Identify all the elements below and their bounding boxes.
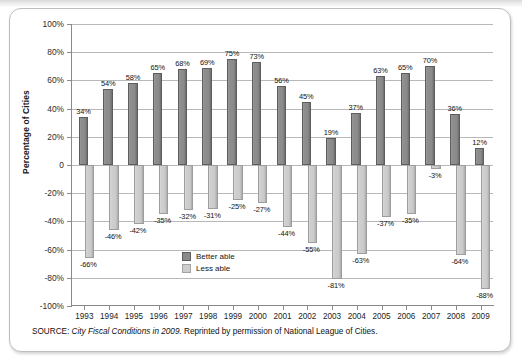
bar-value-label-better-able: 37% [349,103,364,112]
source-title: City Fiscal Conditions in 2009. [72,327,182,336]
bar-less-able [159,165,169,214]
x-axis-tick-label: 1994 [100,312,118,321]
bar-value-label-less-able: -63% [352,256,369,265]
bar-better-able [351,113,361,165]
bar-less-able [184,165,194,210]
bar-value-label-better-able: 70% [423,56,438,65]
chart-figure-frame: Percentage of Cities 100%80%60%40%20%0-2… [9,8,511,352]
bar-value-label-better-able: 56% [274,76,289,85]
bar-better-able [475,148,485,165]
y-axis-tick-label: -40% [44,216,64,226]
bar-value-label-less-able: -32% [179,212,196,221]
x-axis-tick-label: 2001 [273,312,291,321]
source-note: SOURCE: City Fiscal Conditions in 2009. … [32,327,377,336]
gridline [72,250,493,251]
gridline [72,278,493,279]
bar-better-able [376,76,386,165]
plot-area: 100%80%60%40%20%0-20%-40%-60%-80%-100% 1… [72,24,493,306]
bar-better-able [103,89,113,165]
bar-value-label-better-able: 36% [448,104,463,113]
y-axis-tick [67,24,72,25]
figure-page: Percentage of Cities 100%80%60%40%20%0-2… [0,0,522,362]
bar-value-label-better-able: 73% [249,52,264,61]
x-axis-tick-label: 2008 [447,312,465,321]
x-axis-tick [481,306,482,310]
x-axis-tick-label: 2006 [397,312,415,321]
bar-better-able [153,73,163,165]
y-axis-tick [67,306,72,307]
bar-value-label-less-able: -35% [154,216,171,225]
bar-better-able [227,59,237,165]
x-axis-tick-label: 2005 [372,312,390,321]
bar-value-label-less-able: -44% [278,229,295,238]
bar-better-able [202,68,212,165]
bar-value-label-less-able: -3% [429,171,442,180]
bar-less-able [258,165,268,203]
page-top-shadow [0,0,522,7]
bar-better-able [302,102,312,165]
bar-better-able [425,66,435,165]
bar-less-able [407,165,417,214]
x-axis-tick [382,306,383,310]
bar-value-label-less-able: -81% [328,281,345,290]
y-axis-tick-label: 40% [47,104,64,114]
y-axis-tick-label: 80% [47,47,64,57]
x-axis-tick [332,306,333,310]
legend-item-better-able: Better able [182,252,235,261]
x-axis-tick-label: 1997 [174,312,192,321]
bar-less-able [431,165,441,169]
bar-value-label-less-able: -27% [253,205,270,214]
bar-better-able [128,83,138,165]
legend-swatch-icon-less-able [182,264,191,273]
bar-value-label-less-able: -25% [229,202,246,211]
x-axis-tick-label: 1996 [150,312,168,321]
y-axis-tick-label: -100% [40,301,64,311]
bar-value-label-better-able: 54% [101,79,116,88]
bar-less-able [233,165,243,200]
bar-better-able [277,86,287,165]
bar-less-able [134,165,144,224]
bar-value-label-better-able: 68% [175,59,190,68]
x-axis-tick [307,306,308,310]
y-axis-tick [67,165,72,166]
bar-value-label-better-able: 69% [200,58,215,67]
y-axis-tick [67,80,72,81]
gridline [72,52,493,53]
x-axis-tick-label: 2009 [472,312,490,321]
x-axis-tick [134,306,135,310]
bar-better-able [401,73,411,165]
bar-value-label-less-able: -55% [303,245,320,254]
y-axis-tick [67,221,72,222]
bar-less-able [456,165,466,255]
bar-less-able [481,165,491,289]
bar-value-label-less-able: -31% [204,211,221,220]
x-axis-tick [183,306,184,310]
source-rest: Reprinted by permission of National Leag… [184,327,377,336]
bar-value-label-less-able: -66% [80,260,97,269]
x-axis-tick [258,306,259,310]
bar-value-label-better-able: 12% [472,138,487,147]
legend-item-less-able: Less able [182,264,235,273]
x-axis-tick-label: 1995 [125,312,143,321]
x-axis-tick-label: 2003 [323,312,341,321]
y-axis-tick-label: 20% [47,132,64,142]
x-axis-tick [456,306,457,310]
bar-value-label-less-able: -35% [402,216,419,225]
x-axis-tick [159,306,160,310]
x-axis-tick [84,306,85,310]
bar-less-able [85,165,95,258]
x-axis-tick-label: 2004 [348,312,366,321]
x-axis-tick [431,306,432,310]
bar-value-label-better-able: 45% [299,92,314,101]
bar-value-label-less-able: -42% [129,226,146,235]
x-axis-tick [406,306,407,310]
bar-better-able [326,138,336,165]
y-axis-title: Percentage of Cities [21,72,31,192]
legend-label-less-able: Less able [196,264,230,273]
x-axis-tick-label: 1999 [224,312,242,321]
bar-value-label-less-able: -46% [105,232,122,241]
chart-plot-wrapper: Percentage of Cities 100%80%60%40%20%0-2… [10,9,512,353]
source-prefix: SOURCE: [32,327,69,336]
bar-better-able [252,62,262,165]
x-axis-tick [109,306,110,310]
